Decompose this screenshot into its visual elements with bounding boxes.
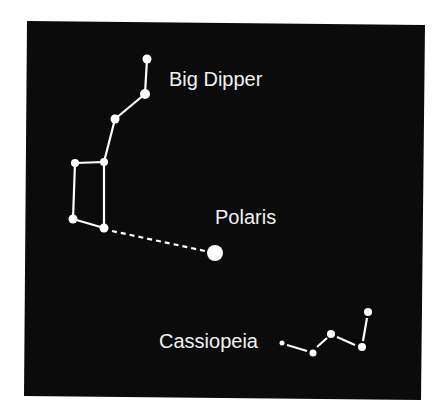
star <box>71 159 79 167</box>
star <box>280 341 285 346</box>
star <box>310 350 317 357</box>
star-chart: Big Dipper Polaris Cassiopeia <box>0 0 445 419</box>
big-dipper-label: Big Dipper <box>169 68 263 90</box>
star <box>69 215 78 224</box>
polaris-label: Polaris <box>215 206 276 228</box>
polaris-star <box>207 245 223 261</box>
star <box>100 158 108 166</box>
star <box>111 115 120 124</box>
star <box>140 89 150 99</box>
star <box>358 343 366 351</box>
cassiopeia-label: Cassiopeia <box>159 330 259 352</box>
star <box>100 224 109 233</box>
star <box>364 308 372 316</box>
star <box>327 330 335 338</box>
star <box>143 55 152 64</box>
